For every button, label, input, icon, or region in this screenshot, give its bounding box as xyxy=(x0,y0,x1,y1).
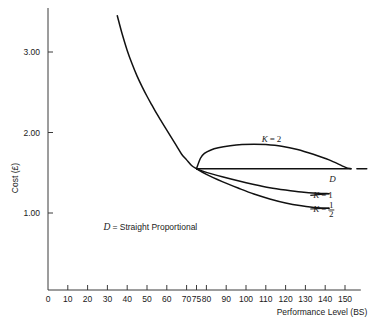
x-tick-label-100: 100 xyxy=(239,294,253,304)
legend-note: D= Straight Proportional xyxy=(102,222,197,232)
y-tick-label-3-00: 3.00 xyxy=(23,47,40,57)
x-tick-label-20: 20 xyxy=(83,294,93,304)
axes xyxy=(48,8,361,290)
label-equals-sign: = xyxy=(270,134,275,144)
x-tick-label-110: 110 xyxy=(259,294,273,304)
legend-note-text: = Straight Proportional xyxy=(112,222,197,232)
series-label-k-equals-2: K=2 xyxy=(261,134,282,144)
x-axis-title: Performance Level (BS) xyxy=(277,307,368,317)
x-tick-label-130: 130 xyxy=(298,294,312,304)
series-labels: K=2DK=1K=12 xyxy=(261,134,336,219)
series-label-k-equals-half: K=12 xyxy=(312,200,334,219)
x-tick-label-75: 75 xyxy=(192,294,202,304)
label-fraction-denominator: 2 xyxy=(329,209,334,219)
axis-ticks xyxy=(48,52,345,290)
x-tick-label-150: 150 xyxy=(338,294,352,304)
x-tick-label-80: 80 xyxy=(202,294,212,304)
y-tick-label-1-00: 1.00 xyxy=(23,208,40,218)
y-tick-labels: 1.002.003.00 xyxy=(23,47,40,218)
leader-line-k-equals-half xyxy=(310,208,329,209)
x-tick-label-120: 120 xyxy=(279,294,293,304)
x-tick-label-60: 60 xyxy=(162,294,172,304)
x-tick-label-50: 50 xyxy=(142,294,152,304)
x-tick-label-140: 140 xyxy=(318,294,332,304)
curve-k-equals-2 xyxy=(197,144,351,169)
x-tick-label-40: 40 xyxy=(122,294,132,304)
chart-canvas: 010203040506070758090100110120130140150 … xyxy=(0,0,391,327)
label-value: 2 xyxy=(277,134,282,144)
series-label-straight-proportional-D: D xyxy=(328,174,336,184)
x-tick-labels: 010203040506070758090100110120130140150 xyxy=(46,294,353,304)
label-symbol-k: K xyxy=(261,134,269,144)
x-tick-label-70: 70 xyxy=(182,294,192,304)
label-value: 1 xyxy=(328,190,333,200)
y-tick-label-2-00: 2.00 xyxy=(23,128,40,138)
x-tick-label-10: 10 xyxy=(63,294,73,304)
curve-k-equals-1 xyxy=(197,169,330,194)
legend-note-symbol: D xyxy=(102,222,110,232)
y-axis-title: Cost (£) xyxy=(10,163,20,193)
chart-figure: 010203040506070758090100110120130140150 … xyxy=(0,0,391,327)
x-tick-label-0: 0 xyxy=(46,294,51,304)
curve-descending-cost-curve xyxy=(117,16,196,169)
x-tick-label-30: 30 xyxy=(103,294,113,304)
label-equals-sign: = xyxy=(321,190,326,200)
x-tick-label-90: 90 xyxy=(221,294,231,304)
